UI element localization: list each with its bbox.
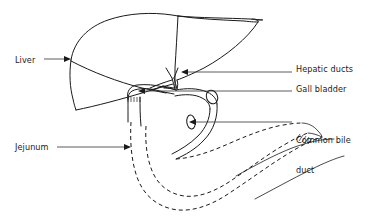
leader-gall-bladder <box>138 88 292 94</box>
common-bile-duct-shape <box>164 88 220 159</box>
anatomy-diagram: Liver Jejunum Hepatic ducts Gall bladder… <box>0 0 372 219</box>
label-common-bile-duct-line2: duct <box>296 165 351 175</box>
label-gall-bladder: Gall bladder <box>296 84 346 94</box>
hatching-marks-gallbladder <box>128 97 140 102</box>
liver-shape <box>70 13 263 110</box>
label-jejunum: Jejunum <box>15 142 49 152</box>
leader-liver <box>44 56 71 62</box>
leader-jejunum <box>57 144 131 150</box>
label-common-bile-duct-line1: Common bile <box>296 135 351 145</box>
label-hepatic-ducts: Hepatic ducts <box>296 64 353 74</box>
label-liver: Liver <box>15 55 35 65</box>
leader-common-bile-duct <box>189 119 292 125</box>
leader-hepatic-ducts <box>181 69 292 75</box>
label-common-bile-duct: Common bile duct <box>296 115 351 195</box>
